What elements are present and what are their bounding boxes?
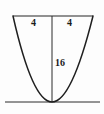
figure-canvas: 4 4 16 [0, 0, 104, 114]
label-left-half-width: 4 [31, 18, 36, 28]
label-depth: 16 [55, 58, 65, 68]
parabola-diagram [0, 0, 104, 114]
label-right-half-width: 4 [67, 18, 72, 28]
parabola-curve [13, 16, 93, 102]
